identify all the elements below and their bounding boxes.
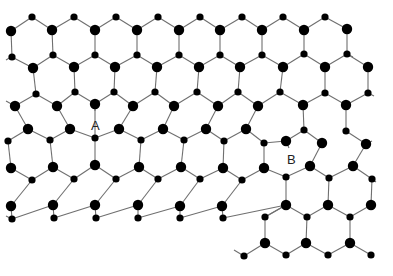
atom-small [28,13,35,20]
atom-small [216,51,223,58]
atom-small [134,214,141,221]
atom-small [220,137,227,144]
atom-small [154,13,161,20]
hexagonal-lattice-diagram: A B [0,0,393,276]
atom-large [259,163,269,173]
atom-large [90,99,100,109]
atom-large [90,25,100,35]
atom-large [6,26,16,36]
atom-large [114,124,124,134]
atom-large [278,62,288,72]
atom-large [317,138,327,148]
atom-small [110,88,117,95]
atom-large [260,238,270,248]
background [0,0,393,276]
atom-large [363,62,373,72]
atom-large [174,25,184,35]
atom-large [298,100,308,110]
atom-small [193,88,200,95]
atom-large [48,200,58,210]
atom-large [48,162,58,172]
atom-large [241,124,251,134]
atom-small [180,136,187,143]
atom-small [343,50,350,57]
atom-small [260,139,267,146]
atom-large [218,163,228,173]
atom-small [279,13,286,20]
atom-large [28,63,38,73]
atom-small [303,213,310,220]
atom-small [238,176,245,183]
atom-large [201,124,211,134]
atom-small [196,13,203,20]
atom-small [92,214,99,221]
defect-label-a: A [91,118,100,133]
atom-small [133,51,140,58]
atom-small [8,53,15,60]
atom-small [325,174,332,181]
atom-large [175,201,185,211]
atom-large [6,201,16,211]
atom-large [69,62,79,72]
atom-small [175,51,182,58]
atom-large [217,201,227,211]
atom-large [213,101,223,111]
atom-small [46,136,53,143]
atom-large [235,62,245,72]
atom-small [112,13,119,20]
atom-small [151,88,158,95]
atom-large [281,200,291,210]
atom-small [321,13,328,20]
atom-small [282,173,289,180]
atom-small [364,89,371,96]
atom-small [321,89,328,96]
atom-small [137,136,144,143]
atom-large [299,25,309,35]
atom-small [368,175,375,182]
atom-small [91,51,98,58]
atom-small [49,51,56,58]
atom-small [8,215,15,222]
atom-large [158,124,168,134]
atom-small [70,175,77,182]
atom-small [276,88,283,95]
atom-small [70,13,77,20]
atom-large [348,161,358,171]
atom-small [261,213,268,220]
atom-small [71,88,78,95]
atom-large [301,238,311,248]
atom-small [367,251,374,258]
atom-large [90,160,100,170]
atom-large [52,101,62,111]
atom-large [366,200,376,210]
atom-large [128,101,138,111]
atom-large [341,100,351,110]
atom-small [346,213,353,220]
atom-large [345,238,355,248]
atom-large [152,62,162,72]
atom-large [342,24,352,34]
atom-small [300,50,307,57]
atom-large [305,161,315,171]
atom-small [240,252,247,259]
atom-large [47,25,57,35]
atom-small [176,214,183,221]
atom-small [50,214,57,221]
atom-large [257,25,267,35]
atom-small [342,127,349,134]
atom-small [219,214,226,221]
atom-large [194,62,204,72]
atom-large [361,139,371,149]
atom-small [4,137,11,144]
atom-small [258,51,265,58]
atom-large [320,62,330,72]
atom-small [112,175,119,182]
defect-label-b: B [287,152,296,167]
atom-small [154,175,161,182]
atom-large [134,162,144,172]
atom-large [281,136,291,146]
atom-large [133,200,143,210]
atom-large [169,101,179,111]
atom-small [32,90,39,97]
atom-large [176,162,186,172]
